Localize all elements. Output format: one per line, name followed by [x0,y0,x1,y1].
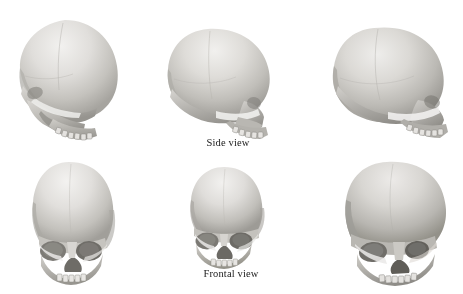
caption-frontal-view: Frontal view [181,268,281,279]
skull-image-frontal-right [333,158,459,286]
skull-image-side-left [5,14,133,142]
skull-image-frontal-middle [178,164,274,270]
skull-image-frontal-left [17,158,129,286]
caption-side-view: Side view [178,137,278,148]
skull-image-side-middle [158,23,280,141]
skull-image-side-right [322,22,457,140]
skull-figure: Side view [0,0,463,294]
